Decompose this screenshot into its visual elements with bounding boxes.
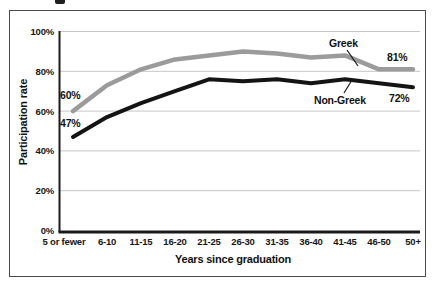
non-greek-line — [73, 79, 413, 137]
greek-end-value-label: 81% — [387, 51, 407, 63]
x-tick-label-5: 26-30 — [231, 236, 254, 247]
x-tick-label-8: 41-45 — [333, 236, 356, 247]
y-tick-label-80: 80% — [0, 66, 54, 77]
non-greek-end-value-label: 72% — [389, 92, 409, 104]
greek-series-label: Greek — [329, 37, 358, 49]
line-chart-canvas — [0, 0, 438, 291]
non-greek-leader-line — [344, 80, 352, 93]
chart-figure: Participation rate Years since graduatio… — [0, 0, 438, 291]
x-tick-label-10: 50+ — [405, 236, 421, 247]
x-tick-label-4: 21-25 — [197, 236, 220, 247]
x-tick-label-6: 31-35 — [265, 236, 288, 247]
y-tick-label-20: 20% — [0, 185, 54, 196]
greek-start-value-label: 60% — [60, 89, 80, 101]
x-tick-label-9: 46-50 — [367, 236, 390, 247]
x-tick-label-2: 11-15 — [130, 236, 153, 247]
y-tick-label-100: 100% — [0, 26, 54, 37]
non-greek-start-value-label: 47% — [60, 117, 80, 129]
x-tick-label-0: 5 or fewer — [43, 236, 86, 247]
x-axis-title: Years since graduation — [175, 253, 291, 265]
y-tick-label-60: 60% — [0, 106, 54, 117]
y-tick-label-40: 40% — [0, 145, 54, 156]
x-tick-label-7: 36-40 — [299, 236, 322, 247]
non-greek-series-label: Non-Greek — [314, 94, 366, 106]
y-tick-label-0: 0% — [0, 225, 54, 236]
x-tick-label-1: 6-10 — [98, 236, 116, 247]
y-axis-title: Participation rate — [17, 62, 29, 182]
x-tick-label-3: 16-20 — [163, 236, 186, 247]
